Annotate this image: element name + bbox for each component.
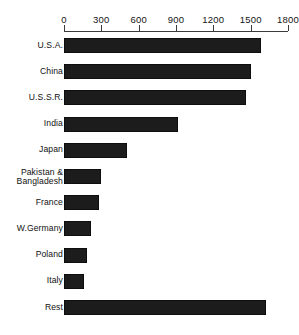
axis-tick-label: 900 [168, 14, 184, 25]
bar-row: India [0, 117, 299, 132]
axis-tick-mark [64, 25, 65, 31]
bar [64, 117, 178, 132]
bar-category-label: W.Germany [17, 224, 63, 233]
bar-row: France [0, 195, 299, 210]
bar-category-label: China [40, 67, 63, 76]
bar-fill [64, 90, 246, 105]
bar-row: U.S.A. [0, 38, 299, 53]
bar [64, 90, 246, 105]
bar-fill [64, 38, 261, 53]
bar-category-label: U.S.A. [38, 41, 63, 50]
bar-row: China [0, 64, 299, 79]
bar-row: U.S.S.R. [0, 90, 299, 105]
bar-fill [64, 64, 251, 79]
bar-chart: 0300600900120015001800 U.S.A.ChinaU.S.S.… [0, 0, 299, 335]
bar [64, 300, 266, 315]
bar-category-label: Italy [47, 277, 63, 286]
bar [64, 274, 84, 289]
axis-tick-mark [101, 25, 102, 31]
axis-tick-label: 0 [61, 14, 66, 25]
axis-tick-label: 1500 [240, 14, 262, 25]
chart-x-axis: 0300600900120015001800 [0, 14, 299, 38]
bar-row: Poland [0, 248, 299, 263]
axis-tick-mark [139, 25, 140, 31]
bar-row: W.Germany [0, 221, 299, 236]
axis-tick-mark [251, 25, 252, 31]
bar-fill [64, 274, 84, 289]
bar-fill [64, 143, 127, 158]
bar-category-label: Poland [36, 250, 63, 259]
axis-tick-label: 1800 [277, 14, 299, 25]
axis-tick-mark [176, 25, 177, 31]
bar-fill [64, 248, 87, 263]
bar-category-label: France [36, 198, 63, 207]
axis-line [64, 31, 288, 32]
bar-fill [64, 195, 99, 210]
axis-tick-label: 300 [93, 14, 109, 25]
bar-category-label: Japan [39, 146, 63, 155]
axis-tick-label: 600 [130, 14, 146, 25]
bar-category-label: Rest [45, 303, 63, 312]
bar [64, 195, 99, 210]
bar-row: Italy [0, 274, 299, 289]
axis-tick-mark [213, 25, 214, 31]
bar-category-label: U.S.S.R. [29, 93, 63, 102]
bar [64, 38, 261, 53]
bar-row: Rest [0, 300, 299, 315]
chart-caption [6, 327, 294, 335]
bar [64, 221, 91, 236]
bar-row: Pakistan & Bangladesh [0, 169, 299, 184]
bar [64, 64, 251, 79]
bar-category-label: Pakistan & Bangladesh [17, 167, 63, 185]
bar-category-label: India [44, 119, 63, 128]
bar [64, 169, 101, 184]
bar-row: Japan [0, 143, 299, 158]
bar-fill [64, 221, 91, 236]
bar [64, 143, 127, 158]
bar-fill [64, 117, 178, 132]
bar-fill [64, 300, 266, 315]
bar [64, 248, 87, 263]
chart-plot-area: U.S.A.ChinaU.S.S.R.IndiaJapanPakistan & … [0, 38, 299, 323]
axis-tick-label: 1200 [202, 14, 224, 25]
axis-tick-mark [288, 25, 289, 31]
bar-fill [64, 169, 101, 184]
